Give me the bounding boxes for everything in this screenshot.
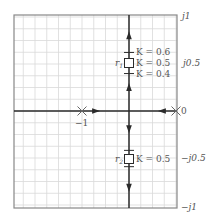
arrow-left-icon [158, 108, 166, 114]
real-label-0: 0 [181, 106, 187, 116]
root-label-r1: r1 [115, 58, 123, 69]
root-square-icon [125, 59, 134, 68]
imag-label-minus-j1: −j1 [181, 202, 197, 212]
imag-label-j1: j1 [180, 11, 191, 21]
root-locus-diagram: K = 0.6K = 0.4 r1K = 0.5r2K = 0.5 j1 j0.… [0, 0, 212, 221]
arrow-up-icon [126, 83, 132, 91]
root-gain-label: K = 0.5 [136, 154, 171, 164]
arrow-up-icon [126, 31, 132, 39]
arrow-down-icon [126, 184, 132, 192]
imag-label-j0.5: j0.5 [181, 58, 200, 68]
root-square-icon [125, 155, 134, 164]
gain-tick-label: K = 0.6 [136, 47, 171, 57]
arrow-right-icon [92, 108, 100, 114]
imag-label-minus-j0.5: −j0.5 [181, 153, 206, 163]
real-label-minus-1: −1 [75, 118, 88, 128]
gain-tick-label: K = 0.4 [136, 69, 171, 79]
root-gain-label: K = 0.5 [136, 58, 171, 68]
root-label-r2: r2 [115, 154, 123, 165]
arrow-down-icon [126, 125, 132, 133]
